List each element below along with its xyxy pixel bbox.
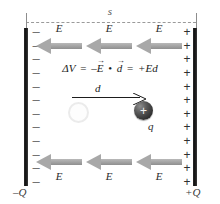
field-label-e: E [36, 170, 82, 182]
displacement-arrow-shaft [72, 97, 140, 98]
arrow-head-left-icon [136, 154, 151, 170]
field-arrow: E [136, 153, 182, 171]
field-label-e: E [136, 170, 182, 182]
plus-sign: + [183, 83, 190, 91]
field-label-e: E [86, 170, 132, 182]
equation-e-vector: →E [97, 62, 104, 74]
displacement-label-d: d [95, 82, 101, 94]
field-label-e: E [36, 22, 82, 34]
field-arrow: E [36, 153, 82, 171]
positive-charge-signs: + + + + + + + + + + + + [181, 28, 193, 186]
equation-dot-product-icon: • [106, 62, 114, 74]
arrow-head-left-icon [36, 38, 51, 54]
positive-plate [193, 28, 197, 186]
negative-plate [24, 28, 28, 186]
equation-delta-v: ΔV [62, 62, 75, 74]
particle-plus-sign: + [134, 101, 153, 120]
field-label-e: E [136, 22, 182, 34]
arrow-head-left-icon [36, 154, 51, 170]
plate-separation-label: s [0, 5, 220, 17]
arrow-head-left-icon [86, 38, 101, 54]
arrow-shaft [150, 159, 182, 165]
plus-sign: + [183, 42, 190, 50]
arrow-shaft [50, 43, 82, 49]
potential-difference-equation: ΔV = –→E • →d = +Ed [0, 62, 220, 74]
plus-sign: + [183, 96, 190, 104]
positive-test-charge-sphere: + [134, 101, 153, 120]
plus-sign: + [183, 28, 190, 36]
arrow-shaft [50, 159, 82, 165]
arrow-shaft [150, 43, 182, 49]
field-arrow: E [36, 37, 82, 55]
plus-sign: + [183, 137, 190, 145]
field-label-e: E [86, 22, 132, 34]
field-arrow: E [136, 37, 182, 55]
field-arrow: E [86, 153, 132, 171]
equation-d-vector: →d [117, 62, 123, 74]
arrow-shaft [100, 159, 132, 165]
initial-position-ghost-circle [68, 102, 89, 123]
minus-sign: – [32, 96, 39, 104]
plus-sign: + [183, 164, 190, 172]
plus-sign: + [183, 178, 190, 186]
minus-sign: – [32, 110, 39, 118]
arrow-head-left-icon [86, 154, 101, 170]
minus-sign: – [32, 137, 39, 145]
arrow-head-left-icon [136, 38, 151, 54]
equation-equals-2: = [125, 62, 135, 74]
arrow-shaft [100, 43, 132, 49]
equation-result: +Ed [138, 62, 158, 74]
field-arrow-row-top: E E E [36, 37, 182, 55]
particle-charge-label-q: q [148, 120, 154, 132]
plus-sign: + [183, 123, 190, 131]
vector-arrow-icon: → [117, 57, 123, 65]
positive-plate-charge-label: +Q [185, 186, 200, 198]
negative-plate-charge-label: –Q [13, 186, 26, 198]
field-arrow-row-bottom: E E E [36, 153, 182, 171]
capacitor-field-diagram: s – – – – – – – – – – – – + + + + + + + … [0, 0, 220, 204]
minus-sign: – [32, 83, 39, 91]
field-arrow: E [86, 37, 132, 55]
equation-equals-1: = [78, 62, 88, 74]
plus-sign: + [183, 151, 190, 159]
plus-sign: + [183, 110, 190, 118]
vector-arrow-icon: → [97, 57, 104, 65]
minus-sign: – [32, 123, 39, 131]
